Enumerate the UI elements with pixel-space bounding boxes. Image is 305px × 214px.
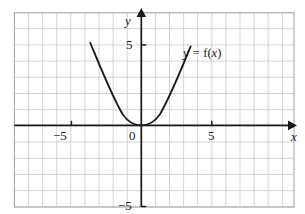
curve-label-lhs: y	[183, 46, 189, 60]
x-axis-label: x	[291, 130, 297, 143]
grid-lines	[14, 13, 294, 208]
y-axis-label: y	[125, 14, 131, 27]
origin-label: 0	[129, 129, 136, 142]
graph-figure: y x 5 −5 −5 5 0 y = f(x)	[0, 0, 305, 214]
y-tick-label-5: 5	[126, 38, 133, 51]
x-tick-label-5: 5	[208, 129, 215, 142]
coordinate-plane	[0, 0, 305, 214]
x-tick-label-neg5: −5	[53, 129, 67, 142]
curve-label-close-paren: )	[217, 46, 221, 60]
y-tick-label-neg5: −5	[118, 199, 132, 212]
curve-label: y = f(x)	[183, 47, 221, 60]
curve-label-equals: =	[192, 46, 200, 60]
y-axis	[137, 8, 147, 207]
